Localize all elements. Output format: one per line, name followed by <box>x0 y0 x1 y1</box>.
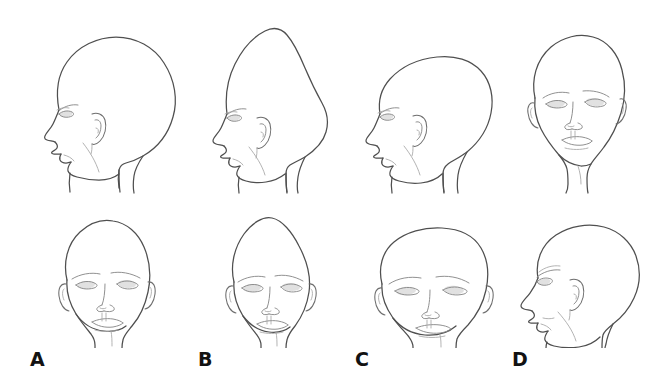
figure-panel-a-frontal <box>45 208 170 348</box>
figure-label-d: D <box>512 350 528 369</box>
figure-label-a: A <box>30 350 45 369</box>
head-drawing-b-frontal <box>212 208 334 348</box>
figure-panel-c-frontal <box>368 208 498 348</box>
head-drawing-c-profile <box>345 10 500 195</box>
figure-label-c: C <box>355 350 369 369</box>
head-drawing-a-profile <box>26 10 186 195</box>
head-drawing-b-profile <box>195 10 345 195</box>
head-drawing-a-frontal <box>45 208 170 348</box>
figure-panel-b-frontal <box>212 208 334 348</box>
figure-panel-d-profile <box>508 208 653 348</box>
figure-panel-d-frontal <box>505 14 640 194</box>
figure-canvas: A B C D <box>0 0 655 382</box>
figure-label-b: B <box>198 350 212 369</box>
figure-panel-a-profile <box>26 10 186 195</box>
head-drawing-d-frontal <box>505 14 640 194</box>
head-drawing-d-profile <box>508 208 653 348</box>
figure-panel-b-profile <box>195 10 345 195</box>
head-drawing-c-frontal <box>368 208 498 348</box>
figure-panel-c-profile <box>345 10 500 195</box>
